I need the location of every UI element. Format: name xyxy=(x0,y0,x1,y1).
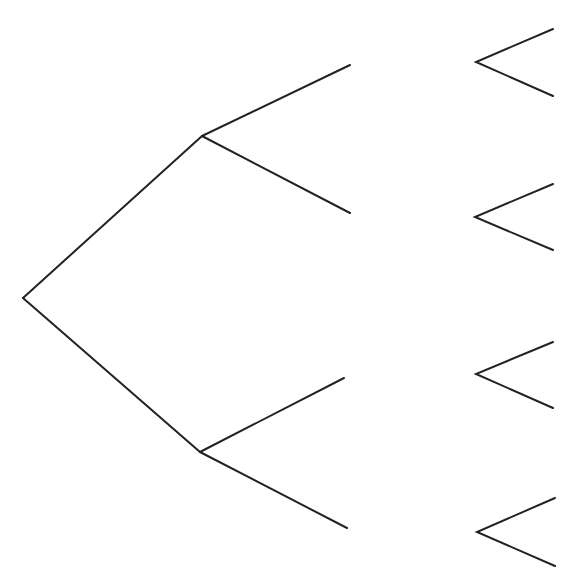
branch-root-upper xyxy=(23,136,202,298)
fork-3 xyxy=(476,342,553,408)
branch-upper-1 xyxy=(202,136,350,213)
branch-lower-2 xyxy=(200,378,344,452)
branch-root-lower xyxy=(23,298,200,452)
tree-branches xyxy=(23,29,555,566)
tree-diagram xyxy=(0,0,576,577)
branch-upper-0 xyxy=(202,65,350,136)
fork-2 xyxy=(475,184,553,250)
fork-1 xyxy=(476,29,553,96)
fork-4 xyxy=(477,498,555,566)
branch-lower-3 xyxy=(200,452,347,528)
